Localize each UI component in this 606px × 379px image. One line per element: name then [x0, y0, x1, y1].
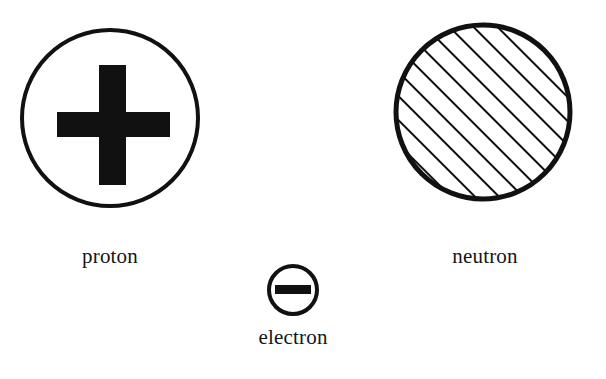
neutron-figure	[389, 16, 581, 210]
minus-sign-icon	[275, 285, 311, 294]
proton-glyph	[18, 20, 202, 220]
proton-figure	[18, 20, 202, 220]
electron-glyph	[264, 261, 322, 319]
electron-figure	[264, 261, 322, 319]
neutron-label: neutron	[415, 244, 555, 269]
electron-label: electron	[228, 325, 358, 350]
neutron-glyph	[389, 16, 581, 210]
neutron-hatching	[389, 16, 581, 210]
particles-diagram: proton neutron electron	[0, 0, 606, 379]
proton-label: proton	[40, 244, 180, 269]
